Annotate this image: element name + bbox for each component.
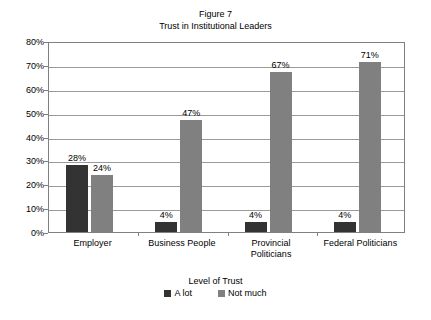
x-axis-tick-mark — [317, 232, 318, 236]
bar-value-label: 4% — [160, 210, 173, 220]
x-axis-category-label: Business People — [137, 238, 226, 249]
x-axis-tick-mark — [138, 232, 139, 236]
bar-group: 4%47% — [138, 43, 227, 232]
x-axis-tick-mark — [228, 232, 229, 236]
plot-area: 28%24%4%47%4%67%4%71% — [48, 42, 405, 233]
bar[interactable]: 4% — [245, 222, 267, 232]
y-axis-tick-label: 60% — [0, 86, 44, 95]
legend-title: Level of Trust — [0, 276, 431, 287]
bar-group: 4%71% — [317, 43, 406, 232]
bar-value-label: 71% — [361, 50, 379, 60]
x-axis: EmployerBusiness PeopleProvincialPolitic… — [48, 238, 405, 272]
y-axis-tick-label: 50% — [0, 110, 44, 119]
bar-value-label: 4% — [249, 210, 262, 220]
bar[interactable]: 24% — [91, 175, 113, 232]
y-axis: 80%70%60%50%40%30%20%10%0% — [0, 42, 44, 233]
x-axis-category-label: ProvincialPoliticians — [227, 238, 316, 260]
x-axis-category-label: Federal Politicians — [316, 238, 405, 249]
y-axis-tick-label: 10% — [0, 205, 44, 214]
bar[interactable]: 67% — [270, 72, 292, 232]
legend-label: A lot — [174, 288, 192, 299]
legend-swatch-icon — [218, 290, 225, 297]
x-axis-category-label-line: Federal Politicians — [316, 238, 405, 249]
figure-number: Figure 7 — [0, 8, 431, 20]
legend-entries: A lotNot much — [0, 288, 431, 299]
y-axis-tick-label: 40% — [0, 134, 44, 143]
x-axis-category-label-line: Business People — [137, 238, 226, 249]
bar-value-label: 24% — [93, 163, 111, 173]
legend-label: Not much — [228, 288, 267, 299]
bar[interactable]: 28% — [66, 165, 88, 232]
x-axis-category-label: Employer — [48, 238, 137, 249]
bar[interactable]: 4% — [155, 222, 177, 232]
y-axis-tick-label: 0% — [0, 229, 44, 238]
chart-legend: Level of Trust A lotNot much — [0, 276, 431, 299]
y-axis-tick-label: 30% — [0, 157, 44, 166]
chart-title-block: Figure 7 Trust in Institutional Leaders — [0, 8, 431, 32]
bar-value-label: 47% — [182, 108, 200, 118]
bar[interactable]: 71% — [359, 62, 381, 232]
bar-group: 28%24% — [49, 43, 138, 232]
y-axis-tick-label: 20% — [0, 181, 44, 190]
x-axis-category-label-line: Politicians — [227, 249, 316, 260]
x-axis-category-label-line: Employer — [48, 238, 137, 249]
legend-entry[interactable]: A lot — [164, 288, 192, 299]
bar-value-label: 67% — [271, 60, 289, 70]
chart-subtitle: Trust in Institutional Leaders — [0, 20, 431, 32]
x-axis-category-label-line: Provincial — [227, 238, 316, 249]
bar[interactable]: 47% — [180, 120, 202, 232]
figure-container: Figure 7 Trust in Institutional Leaders … — [0, 0, 431, 320]
bar[interactable]: 4% — [334, 222, 356, 232]
y-axis-tick-label: 80% — [0, 38, 44, 47]
bar-value-label: 4% — [338, 210, 351, 220]
y-axis-tick-label: 70% — [0, 62, 44, 71]
legend-entry[interactable]: Not much — [218, 288, 267, 299]
bar-value-label: 28% — [68, 153, 86, 163]
y-axis-tick-mark — [44, 233, 48, 234]
legend-swatch-icon — [164, 290, 171, 297]
bar-group: 4%67% — [228, 43, 317, 232]
